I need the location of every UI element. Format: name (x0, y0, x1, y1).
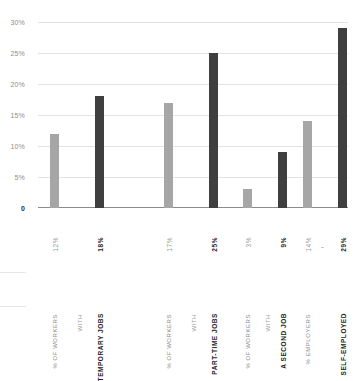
xlabel-col-workers-second: 3% % OF WORKERS (240, 210, 256, 322)
category-employers: % EMPLOYERS (305, 314, 311, 364)
category-with-2: WITH (191, 314, 197, 332)
y-tick-0: 0 (0, 205, 25, 212)
xlabel-col-parttime-jobs: 25% PART-TIME JOBS (206, 210, 222, 322)
category-with-3: WITH (265, 314, 271, 332)
x-axis-labels: 12% % OF WORKERS WITH 18% TEMPORARY JOBS… (38, 210, 348, 322)
value-label-3: 3% (245, 237, 252, 248)
gridline-15 (38, 115, 348, 116)
value-label-14: 14% (305, 237, 312, 252)
category-workers-1: % OF WORKERS (52, 314, 58, 369)
bar-self-employed (338, 28, 347, 208)
category-parttime-jobs: PART-TIME JOBS (211, 313, 218, 375)
bar-workers-second (243, 189, 252, 208)
axis-baseline (38, 207, 348, 208)
y-tick-5: 5% (0, 174, 25, 181)
xlabel-col-self-employed: 29% SELF-EMPLOYED (335, 210, 351, 322)
category-second-job: A SECOND JOB (280, 313, 287, 369)
category-with-1: WITH (77, 314, 83, 332)
bar-workers-parttime (164, 103, 173, 208)
y-tick-10: 10% (0, 143, 25, 150)
value-label-29: 29% (340, 237, 347, 252)
value-label-12: 12% (52, 237, 59, 252)
edge-rule-upper (0, 272, 26, 273)
gridline-5 (38, 177, 348, 178)
category-temporary-jobs: TEMPORARY JOBS (97, 313, 104, 381)
value-label-17: 17% (166, 237, 173, 252)
y-tick-25: 25% (0, 50, 25, 57)
xlabel-col-temporary-jobs: 18% TEMPORARY JOBS (92, 210, 108, 322)
xlabel-col-employers: 14% % EMPLOYERS (300, 210, 316, 322)
edge-rule-lower (0, 306, 26, 307)
gridline-25 (38, 53, 348, 54)
bar-second-job (278, 152, 287, 208)
gridline-10 (38, 146, 348, 147)
xlabel-col-with-3: WITH (260, 210, 276, 322)
xlabel-col-workers-parttime: 17% % OF WORKERS (161, 210, 177, 322)
label-separator-dot (321, 247, 324, 248)
xlabel-col-with-1: WITH (72, 210, 88, 322)
gridline-30 (38, 22, 348, 23)
bar-temporary-jobs (95, 96, 104, 208)
xlabel-col-second-job: 9% A SECOND JOB (275, 210, 291, 322)
xlabel-col-workers-temporary: 12% % OF WORKERS (47, 210, 63, 322)
y-tick-15: 15% (0, 112, 25, 119)
gridline-20 (38, 84, 348, 85)
bar-parttime-jobs (209, 53, 218, 208)
category-workers-3: % OF WORKERS (245, 314, 251, 369)
y-tick-20: 20% (0, 81, 25, 88)
xlabel-col-with-2: WITH (186, 210, 202, 322)
plot-area: 30% 25% 20% 15% 10% 5% 0 (38, 22, 348, 208)
value-label-9: 9% (280, 237, 287, 248)
bar-employers (303, 121, 312, 208)
category-workers-2: % OF WORKERS (166, 314, 172, 369)
value-label-25: 25% (211, 237, 218, 252)
category-self-employed: SELF-EMPLOYED (340, 313, 347, 375)
value-label-18: 18% (97, 237, 104, 252)
y-tick-30: 30% (0, 19, 25, 26)
bar-workers-temporary (50, 134, 59, 208)
